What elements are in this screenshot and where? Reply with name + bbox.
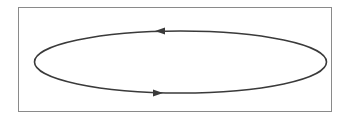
- frame-rectangle: [19, 8, 332, 112]
- loop-diagram: [0, 0, 349, 116]
- loop-ellipse: [35, 31, 327, 93]
- arrow-left-icon: [155, 28, 165, 35]
- arrow-right-icon: [153, 90, 163, 97]
